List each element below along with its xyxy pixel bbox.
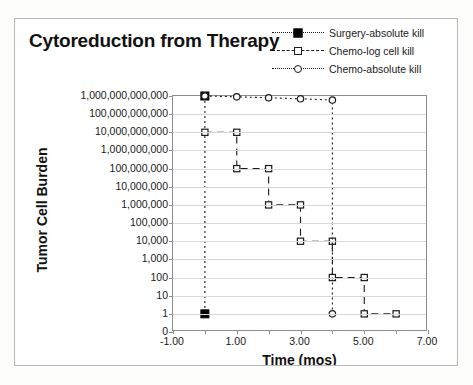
x-axis-tick-labels: -1.001.003.005.007.00 (172, 335, 427, 351)
y-axis-tick-mark (169, 169, 173, 170)
y-axis-tick-mark (169, 114, 173, 115)
legend-marker-icon (294, 47, 302, 55)
x-axis-tick-mark (364, 330, 365, 334)
x-axis-tick-mark (301, 330, 302, 334)
data-point-marker (202, 93, 208, 99)
horizontal-gridline (173, 259, 426, 260)
horizontal-gridline (173, 132, 426, 133)
y-axis-tick-mark (169, 314, 173, 315)
legend-item-label: Chemo-absolute kill (324, 63, 421, 75)
x-axis-tick-mark (332, 330, 333, 334)
legend-item-label: Chemo-log cell kill (324, 45, 414, 57)
y-axis-tick-mark (169, 132, 173, 133)
y-axis-tick-label: 1,000,000,000,000 (21, 89, 168, 101)
legend-item[interactable]: Chemo-log cell kill (272, 42, 450, 60)
y-axis-tick-mark (169, 223, 173, 224)
horizontal-gridline (173, 278, 426, 279)
legend-marker-icon (294, 65, 302, 73)
x-axis-title: Time (mos) (172, 352, 427, 366)
legend-item[interactable]: Chemo-absolute kill (272, 60, 450, 78)
x-axis-tick-mark (237, 330, 238, 334)
legend-marker-icon (294, 29, 303, 38)
y-axis-tick-mark (169, 259, 173, 260)
y-axis-tick-mark (169, 205, 173, 206)
data-point-marker (297, 96, 303, 102)
y-axis-tick-mark (169, 96, 173, 97)
legend-key-swatch (272, 62, 324, 76)
horizontal-gridline (173, 150, 426, 151)
y-axis-tick-mark (169, 150, 173, 151)
horizontal-gridline (173, 169, 426, 170)
data-point-marker (265, 95, 271, 101)
horizontal-gridline (173, 187, 426, 188)
horizontal-gridline (173, 296, 426, 297)
y-axis-tick-mark (169, 187, 173, 188)
y-axis-tick-mark (169, 296, 173, 297)
chart-title: Cytoreduction from Therapy (29, 30, 279, 52)
legend-item[interactable]: Surgery-absolute kill (272, 24, 450, 42)
data-point-marker (329, 97, 335, 103)
x-axis-tick-label: 1.00 (226, 335, 246, 347)
chart-legend: Surgery-absolute killChemo-log cell kill… (272, 24, 450, 78)
y-axis-tick-mark (169, 241, 173, 242)
y-axis-tick-label: 100,000,000,000 (21, 107, 168, 119)
horizontal-gridline (173, 205, 426, 206)
horizontal-gridline (173, 114, 426, 115)
horizontal-gridline (173, 314, 426, 315)
x-axis-tick-mark (269, 330, 270, 334)
chart-container: Cytoreduction from Therapy Surgery-absol… (14, 18, 458, 366)
y-axis-tick-label: 1 (21, 307, 168, 319)
x-axis-tick-mark (428, 330, 429, 334)
x-axis-tick-mark (173, 330, 174, 334)
horizontal-gridline (173, 223, 426, 224)
x-axis-tick-label: -1.00 (160, 335, 184, 347)
x-axis-tick-mark (396, 330, 397, 334)
legend-item-label: Surgery-absolute kill (324, 27, 424, 39)
x-axis-tick-mark (205, 330, 206, 334)
x-axis-tick-label: 5.00 (353, 335, 373, 347)
data-point-marker (234, 94, 240, 100)
y-axis-tick-mark (169, 278, 173, 279)
legend-key-swatch (272, 44, 324, 58)
plot-area (172, 95, 427, 331)
legend-key-swatch (272, 26, 324, 40)
y-axis-tick-label: 0 (21, 325, 168, 337)
x-axis-tick-label: 7.00 (417, 335, 437, 347)
horizontal-gridline (173, 241, 426, 242)
x-axis-tick-label: 3.00 (289, 335, 309, 347)
y-axis-title: Tumor Cell Burden (34, 125, 50, 295)
